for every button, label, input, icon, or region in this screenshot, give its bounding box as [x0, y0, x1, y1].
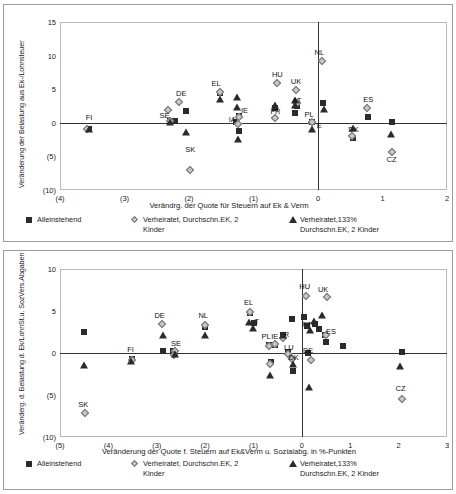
legend-label: Verheiratet,133%Durchschn.EK, 2 Kinder: [300, 459, 379, 479]
data-point-label: SE: [171, 340, 181, 348]
data-point-label: PL: [261, 333, 270, 341]
legend-label: Alleinstehend: [37, 215, 81, 225]
data-point-label: IE: [241, 107, 248, 115]
legend-label-line1: Alleinstehend: [37, 215, 81, 225]
data-point-label: ES: [363, 96, 373, 104]
legend-label-line1: Alleinstehend: [37, 459, 81, 469]
marker-triangle-verheiratet-133: [320, 105, 328, 112]
data-point-label: FI: [127, 346, 134, 354]
data-point-label: FR: [270, 108, 280, 116]
marker-square-alleinstehend: [340, 343, 346, 349]
marker-square-alleinstehend: [160, 348, 166, 354]
legend-label-line1: Verheiratet,133%: [300, 215, 379, 225]
data-point-label: IA: [229, 116, 236, 124]
marker-square-alleinstehend: [236, 128, 242, 134]
data-point-label: NL: [314, 49, 324, 57]
legend-square-icon: [26, 461, 32, 467]
legend-square-icon: [26, 217, 32, 223]
zero-line-horizontal: [60, 353, 447, 354]
y-tick-label: 0: [24, 118, 56, 127]
marker-triangle-verheiratet-133: [80, 361, 88, 368]
marker-triangle-verheiratet-133: [182, 128, 190, 135]
data-point-label: CZ: [396, 385, 406, 393]
marker-triangle-verheiratet-133: [233, 93, 241, 100]
marker-triangle-verheiratet-133: [216, 95, 224, 102]
data-point-label: DE: [303, 347, 313, 355]
data-point-label: NL: [198, 312, 208, 320]
data-point-label: T: [255, 318, 260, 326]
marker-triangle-verheiratet-133: [201, 332, 209, 339]
legend-label-line2: Durchschn.EK, 2 Kinder: [300, 469, 379, 479]
marker-triangle-verheiratet-133: [305, 383, 313, 390]
marker-square-alleinstehend: [323, 339, 329, 345]
data-point-label: AT: [292, 97, 301, 105]
marker-square-alleinstehend: [292, 110, 298, 116]
data-point-label: DK: [288, 354, 298, 362]
legend-label-line2: Kinder: [143, 225, 238, 235]
y-tick-label: (5): [24, 391, 56, 400]
data-point-label: DE: [154, 312, 164, 320]
data-point-label: CZ: [387, 156, 397, 164]
data-point-label: E: [317, 122, 322, 130]
legend-label: Verheiratet, Durchschn.EK, 2Kinder: [143, 215, 238, 235]
marker-triangle-verheiratet-133: [387, 130, 395, 137]
marker-square-alleinstehend: [399, 349, 405, 355]
data-point-label: HU: [272, 71, 283, 79]
data-point-label: SE: [159, 112, 169, 120]
marker-square-alleinstehend: [389, 119, 395, 125]
data-point-label: IE: [271, 333, 278, 341]
legend-label: Verheiratet,133%Durchschn.EK, 2 Kinder: [300, 215, 379, 235]
marker-triangle-verheiratet-133: [127, 357, 135, 364]
chart-panel-top: 151050(5)(10)(4)(3)(2)(1)012Veränderung …: [3, 4, 453, 242]
marker-triangle-verheiratet-133: [318, 312, 326, 319]
marker-triangle-verheiratet-133: [396, 363, 404, 370]
data-point-label: ES: [326, 328, 336, 336]
legend-diamond-icon: [131, 460, 138, 467]
marker-square-alleinstehend: [290, 368, 296, 374]
y-tick-label: 5: [24, 85, 56, 94]
data-point-label: SK: [78, 401, 88, 409]
data-point-label: SK: [185, 146, 195, 154]
data-point-label: PT: [302, 321, 312, 329]
marker-square-alleinstehend: [81, 329, 87, 335]
y-tick-label: 0: [24, 349, 56, 358]
marker-square-alleinstehend: [365, 114, 371, 120]
legend-label: Verheiratet, Durchschn.EK, 2Kinder: [143, 459, 238, 479]
legend-label-line1: Verheiratet, Durchschn.EK, 2: [143, 215, 238, 225]
legend-diamond-icon: [131, 216, 138, 223]
marker-square-alleinstehend: [289, 316, 295, 322]
legend-label: Alleinstehend: [37, 459, 81, 469]
legend-triangle-icon: [289, 216, 297, 223]
y-tick-label: 10: [24, 51, 56, 60]
legend-label-line2: Durchschn.EK, 2 Kinder: [300, 225, 379, 235]
marker-triangle-verheiratet-133: [308, 125, 316, 132]
y-tick-label: 10: [24, 265, 56, 274]
data-point-label: UK: [291, 78, 301, 86]
data-point-label: EL: [211, 80, 220, 88]
y-axis-title: Veränderung der Belastung aus Ek-/Lohnst…: [17, 41, 26, 188]
y-tick-label: 5: [24, 307, 56, 316]
data-point-label: DK: [348, 126, 358, 134]
data-point-label: EL: [244, 299, 253, 307]
y-axis-title: Veränderg. d. Belastung d. Ek/LohnSt.u. …: [17, 253, 26, 435]
data-point-label: R: [284, 331, 289, 339]
marker-triangle-verheiratet-133: [234, 135, 242, 142]
y-tick-label: 15: [24, 18, 56, 27]
x-axis-title: Verändrg. der Quote für Steuern auf Ek &…: [4, 201, 454, 210]
plot-area-top: [60, 22, 447, 190]
data-point-label: DE: [176, 90, 186, 98]
marker-square-alleinstehend: [301, 314, 307, 320]
data-point-label: LU: [284, 344, 294, 352]
chart-panel-bottom: 1050(5)(10)(5)(4)(3)(2)(1)0123Veränderg.…: [3, 250, 453, 490]
data-point-label: FI: [86, 114, 93, 122]
marker-square-alleinstehend: [183, 108, 189, 114]
legend-label-line2: Kinder: [143, 469, 238, 479]
data-point-label: HU: [299, 283, 310, 291]
y-tick-label: (5): [24, 152, 56, 161]
marker-triangle-verheiratet-133: [159, 331, 167, 338]
legend-triangle-icon: [289, 460, 297, 467]
marker-square-alleinstehend: [316, 326, 322, 332]
marker-triangle-verheiratet-133: [171, 350, 179, 357]
marker-triangle-verheiratet-133: [85, 126, 93, 133]
screenshot-page: 151050(5)(10)(4)(3)(2)(1)012Veränderung …: [0, 0, 456, 494]
